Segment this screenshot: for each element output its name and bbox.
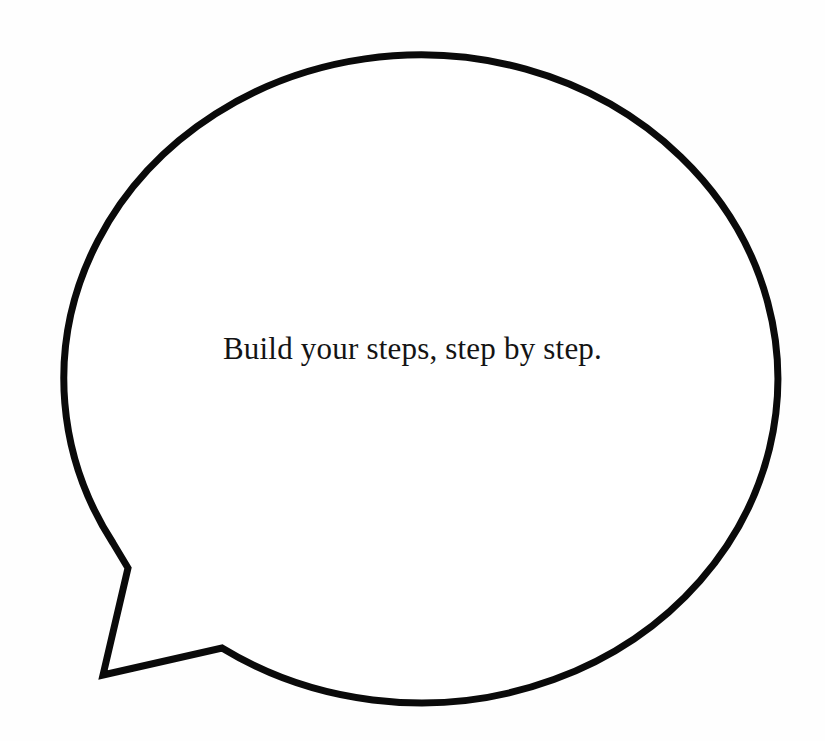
speech-bubble-graphic — [0, 0, 825, 741]
speech-bubble-outline — [64, 55, 778, 703]
speech-bubble-message: Build your steps, step by step. — [0, 330, 825, 368]
speech-bubble-canvas: Build your steps, step by step. — [0, 0, 825, 741]
